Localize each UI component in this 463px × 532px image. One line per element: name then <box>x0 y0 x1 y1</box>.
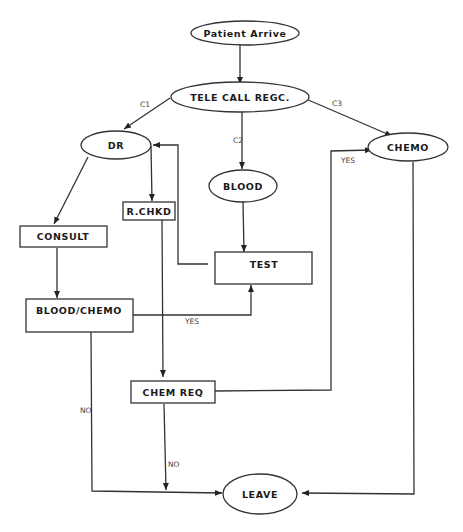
label-c1: C1 <box>140 100 150 109</box>
node-consult: CONSULT <box>20 226 107 247</box>
svg-text:BLOOD/CHEMO: BLOOD/CHEMO <box>36 305 122 316</box>
edge-dr-to-rchkd <box>151 146 152 201</box>
edge-chemo-to-leave <box>302 162 414 494</box>
label-yes-chemo: YES <box>340 156 355 165</box>
edge-blood-to-test <box>243 202 244 252</box>
svg-text:BLOOD: BLOOD <box>223 181 263 192</box>
flowchart: C1 C2 C3 YES YES NO NO Patient Arrive TE… <box>0 0 463 532</box>
node-patient-arrive: Patient Arrive <box>191 21 299 45</box>
node-test: TEST <box>215 252 312 284</box>
node-leave: LEAVE <box>223 474 297 514</box>
label-no-left: NO <box>80 406 92 415</box>
svg-text:TELE CALL REGC.: TELE CALL REGC. <box>190 92 290 103</box>
node-blood: BLOOD <box>209 170 277 202</box>
svg-text:CHEMO: CHEMO <box>387 142 429 153</box>
label-yes-test: YES <box>184 317 199 326</box>
node-rchkd: R.CHKD <box>123 202 175 220</box>
node-tele-call: TELE CALL REGC. <box>171 82 309 112</box>
svg-text:DR: DR <box>108 140 124 151</box>
svg-text:LEAVE: LEAVE <box>242 489 278 500</box>
node-blood-chemo: BLOOD/CHEMO <box>26 299 133 332</box>
svg-text:TEST: TEST <box>250 259 279 270</box>
label-c2: C2 <box>233 136 243 145</box>
node-chem-req: CHEM REQ <box>131 381 215 403</box>
label-no-chemreq: NO <box>168 460 180 469</box>
edge-chemreq-to-leave <box>164 404 166 490</box>
edge-bloodchemo-to-test <box>133 285 251 315</box>
edge-rchkd-to-chemreq <box>162 220 163 377</box>
edge-bloodchemo-to-leave <box>91 332 222 493</box>
svg-text:CHEM REQ: CHEM REQ <box>143 387 204 398</box>
svg-text:Patient Arrive: Patient Arrive <box>204 28 287 39</box>
edge-tele-to-chemo <box>306 99 392 136</box>
label-c3: C3 <box>332 99 342 108</box>
edge-dr-to-consult <box>54 157 88 224</box>
svg-text:R.CHKD: R.CHKD <box>127 206 172 217</box>
node-dr: DR <box>81 131 151 159</box>
node-chemo: CHEMO <box>368 133 448 161</box>
svg-text:CONSULT: CONSULT <box>37 231 90 242</box>
